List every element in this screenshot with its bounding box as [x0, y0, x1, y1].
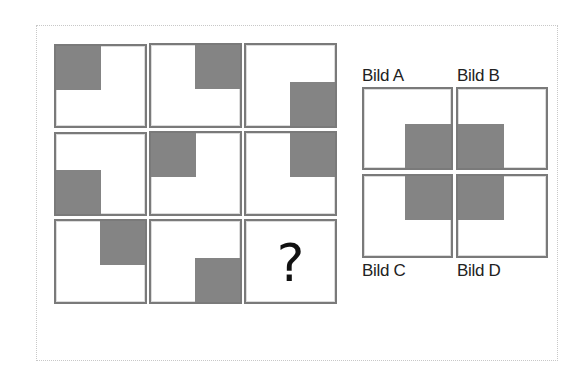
option-bild-a[interactable]	[362, 87, 453, 170]
shaded-square	[100, 221, 145, 265]
shaded-square	[56, 170, 101, 214]
option-bild-c[interactable]	[362, 174, 453, 258]
grid-cell-r2c3	[244, 131, 337, 216]
grid-cell-r1c3	[244, 43, 337, 128]
question-mark: ?	[246, 221, 335, 302]
option-label-d: Bild D	[457, 261, 501, 281]
shaded-square	[151, 133, 196, 177]
shaded-square	[195, 45, 240, 89]
grid-cell-r3c1	[54, 219, 147, 304]
shaded-square	[405, 176, 451, 220]
shaded-square	[458, 176, 504, 220]
shaded-square	[195, 258, 240, 302]
shaded-square	[290, 133, 335, 177]
grid-cell-r2c2	[149, 131, 242, 216]
option-label-a: Bild A	[362, 66, 404, 86]
grid-cell-r2c1	[54, 132, 147, 216]
grid-cell-r1c1	[54, 44, 147, 128]
grid-cell-r1c2	[149, 43, 242, 128]
shaded-square	[405, 124, 451, 168]
option-label-c: Bild C	[362, 261, 406, 281]
grid-cell-r3c3: ?	[244, 219, 337, 304]
grid-cell-r3c2	[149, 219, 242, 304]
shaded-square	[458, 124, 504, 168]
option-bild-d[interactable]	[456, 174, 548, 258]
option-bild-b[interactable]	[456, 87, 548, 170]
shaded-square	[56, 46, 101, 90]
shaded-square	[290, 82, 335, 126]
option-label-b: Bild B	[457, 66, 500, 86]
